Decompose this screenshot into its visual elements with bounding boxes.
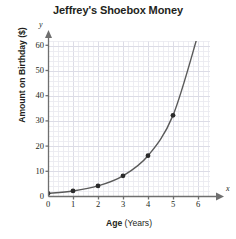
chart-figure: Jeffrey's Shoebox Money 0 10 20 30 40 50… — [0, 0, 236, 239]
axes — [0, 0, 236, 239]
